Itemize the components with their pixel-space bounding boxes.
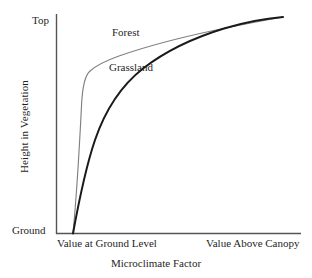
y-axis-tick-label-ground: Ground — [12, 225, 46, 236]
x-axis-title: Microclimate Factor — [0, 258, 312, 269]
series-line-grassland — [73, 17, 283, 234]
series-label-grassland: Grassland — [109, 62, 153, 73]
series-label-forest: Forest — [112, 27, 140, 38]
x-axis-tick-label-left: Value at Ground Level — [57, 238, 157, 249]
x-axis-tick-label-right: Value Above Canopy — [206, 238, 299, 249]
y-axis-tick-label-top: Top — [32, 15, 49, 26]
series-line-forest — [73, 17, 283, 234]
y-axis-title: Height in Vegetation — [19, 72, 30, 182]
chart-figure: Top Ground Height in Vegetation Value at… — [0, 0, 312, 278]
